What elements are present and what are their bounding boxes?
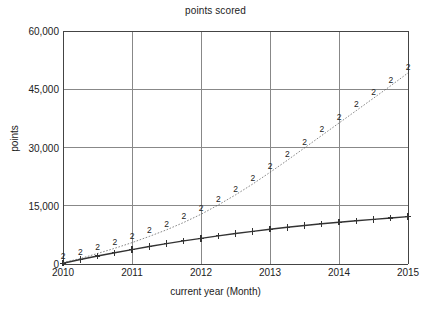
marker-series-1 (336, 219, 341, 225)
marker-series-2: 2 (233, 184, 238, 194)
x-tick-label: 2011 (102, 267, 162, 278)
marker-series-1 (129, 246, 134, 252)
marker-series-2: 2 (164, 219, 169, 229)
marker-series-2: 2 (130, 231, 135, 241)
marker-series-2: 2 (216, 194, 221, 204)
marker-series-2: 2 (388, 75, 393, 85)
marker-series-2: 2 (250, 173, 255, 183)
x-tick-label: 2015 (378, 267, 431, 278)
marker-series-1 (388, 215, 393, 221)
x-tick-label: 2010 (33, 267, 93, 278)
marker-series-2: 2 (337, 112, 342, 122)
marker-series-1 (354, 218, 359, 224)
marker-series-2: 2 (354, 99, 359, 109)
marker-series-1 (405, 213, 410, 219)
chart-container: points scored points 015,00030,00045,000… (0, 0, 431, 309)
marker-series-1 (250, 228, 255, 234)
marker-series-2: 2 (302, 137, 307, 147)
marker-series-2: 2 (61, 251, 66, 261)
marker-series-1 (302, 222, 307, 228)
marker-series-2: 2 (371, 87, 376, 97)
x-axis-label: current year (Month) (0, 286, 431, 297)
marker-series-2: 2 (406, 62, 411, 72)
marker-series-1 (285, 224, 290, 230)
marker-series-1 (112, 250, 117, 256)
data-series-layer: 222222222222222222222 (60, 62, 410, 267)
marker-series-1 (267, 226, 272, 232)
marker-series-1 (371, 216, 376, 222)
marker-series-1 (233, 230, 238, 236)
marker-series-2: 2 (285, 149, 290, 159)
marker-series-1 (181, 238, 186, 244)
marker-series-1 (216, 233, 221, 239)
plot-area: 222222222222222222222 (0, 0, 431, 309)
marker-series-2: 2 (147, 225, 152, 235)
marker-series-2: 2 (95, 242, 100, 252)
marker-series-1 (319, 221, 324, 227)
marker-series-1 (147, 243, 152, 249)
x-tick-label: 2012 (171, 267, 231, 278)
gridlines (63, 31, 408, 264)
marker-series-2: 2 (78, 247, 83, 257)
marker-series-2: 2 (181, 211, 186, 221)
marker-series-2: 2 (199, 203, 204, 213)
marker-series-1 (164, 240, 169, 246)
marker-series-1 (198, 235, 203, 241)
marker-series-2: 2 (268, 161, 273, 171)
marker-series-2: 2 (112, 237, 117, 247)
x-tick-label: 2014 (309, 267, 369, 278)
marker-series-2: 2 (319, 124, 324, 134)
x-tick-label: 2013 (240, 267, 300, 278)
